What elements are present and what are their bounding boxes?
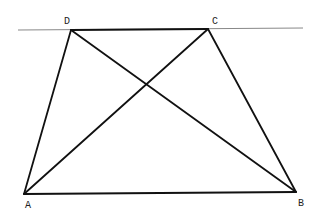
segment-BC xyxy=(208,29,296,192)
diagram-canvas: DCAB xyxy=(0,0,323,220)
vertex-label-c: C xyxy=(212,16,218,27)
segment-CD xyxy=(71,29,208,30)
vertex-label-d: D xyxy=(64,16,70,27)
vertex-label-b: B xyxy=(298,198,304,209)
segment-BD xyxy=(71,30,296,192)
segment-DA xyxy=(24,30,71,194)
segment-AB xyxy=(24,192,296,194)
vertex-label-a: A xyxy=(25,200,31,211)
segments xyxy=(24,29,296,194)
trapezoid-diagram: DCAB xyxy=(0,0,323,220)
segment-AC xyxy=(24,29,208,194)
